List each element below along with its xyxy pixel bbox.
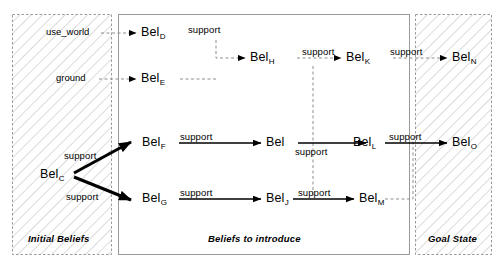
node-bel-d: BelD: [141, 25, 165, 41]
node-bel-i-base: Bel: [266, 135, 284, 149]
edge-label-beld-belh: support: [188, 24, 220, 35]
caption-initial-beliefs: Initial Beliefs: [28, 233, 90, 244]
node-bel-c-sub: C: [59, 174, 65, 183]
edge-label-bell-belo: support: [389, 131, 421, 142]
node-bel-k-base: Bel: [346, 50, 364, 64]
edge-label-belc-belf: support: [64, 150, 96, 161]
edge-label-beli-bell: support: [295, 146, 327, 157]
node-bel-k-sub: K: [365, 57, 370, 66]
node-bel-n-base: Bel: [452, 50, 470, 64]
node-bel-h-sub: H: [269, 57, 275, 66]
node-bel-j-base: Bel: [266, 191, 284, 205]
node-bel-g-base: Bel: [142, 191, 160, 205]
edge-label-belh-belk: support: [302, 46, 334, 57]
node-bel-m-sub: M: [378, 198, 385, 207]
node-bel-f: BelF: [142, 135, 166, 151]
node-bel-n: BelN: [452, 50, 476, 66]
node-bel-l-sub: L: [372, 142, 376, 151]
node-bel-g: BelG: [142, 191, 167, 207]
node-bel-e-sub: E: [160, 78, 165, 87]
node-bel-e: BelE: [141, 71, 165, 87]
node-bel-o: BelO: [452, 135, 477, 151]
node-bel-j: BelJ: [266, 191, 289, 207]
edge-label-belc-belg: support: [66, 191, 98, 202]
term-use-world: use_world: [46, 26, 89, 37]
node-bel-n-sub: N: [471, 57, 477, 66]
node-bel-i: Bel: [266, 135, 285, 151]
node-bel-h-base: Bel: [250, 50, 268, 64]
node-bel-k: BelK: [346, 50, 370, 66]
node-bel-d-base: Bel: [141, 25, 159, 39]
node-bel-m-base: Bel: [359, 191, 377, 205]
diagram-canvas: use_world ground BelD BelE BelH BelK Bel…: [0, 0, 503, 269]
edge-label-belg-belj: support: [180, 187, 212, 198]
node-bel-f-sub: F: [161, 142, 166, 151]
node-bel-g-sub: G: [161, 198, 167, 207]
diagram-vector-layer: [0, 0, 503, 269]
node-bel-c-base: Bel: [40, 167, 58, 181]
node-bel-m: BelM: [359, 191, 384, 207]
panel-initial-beliefs: [13, 15, 112, 255]
node-bel-h: BelH: [250, 50, 274, 66]
node-bel-e-base: Bel: [141, 71, 159, 85]
node-bel-o-base: Bel: [452, 135, 470, 149]
node-bel-j-sub: J: [285, 198, 289, 207]
node-bel-d-sub: D: [160, 32, 166, 41]
node-bel-f-base: Bel: [142, 135, 160, 149]
node-bel-l: BelL: [353, 135, 376, 151]
node-bel-l-base: Bel: [353, 135, 371, 149]
node-bel-c: BelC: [40, 167, 64, 183]
term-ground: ground: [56, 72, 86, 83]
node-bel-o-sub: O: [471, 142, 477, 151]
edge-label-belj-belm: support: [298, 187, 330, 198]
caption-goal-state: Goal State: [428, 233, 477, 244]
caption-beliefs-to-introduce: Beliefs to introduce: [208, 233, 301, 244]
edge-label-belf-beli: support: [180, 131, 212, 142]
edge-label-belk-beln: support: [390, 46, 422, 57]
